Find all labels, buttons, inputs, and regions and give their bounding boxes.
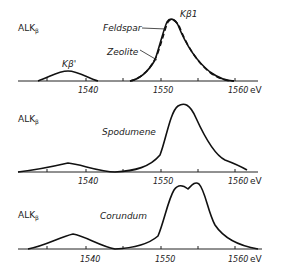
ev-label-1: eV [250, 85, 263, 95]
ev-label-3: eV [250, 254, 263, 264]
kbeta-prime-label: Kβ' [62, 59, 76, 69]
corundum-label: Corundum [100, 211, 147, 221]
svg-text:1540: 1540 [78, 177, 98, 186]
svg-text:1560: 1560 [228, 86, 248, 95]
zeolite-curve [130, 20, 234, 81]
zeolite-label: Zeolite [106, 47, 139, 57]
svg-text:1550: 1550 [153, 177, 173, 186]
panel-3-title: ALKβ [18, 210, 39, 222]
panel-2-title: ALKβ [18, 114, 39, 126]
svg-text:1540: 1540 [80, 255, 100, 264]
svg-text:1560: 1560 [228, 255, 248, 264]
feldspar-label: Feldspar [103, 23, 143, 33]
spodumene-curve [18, 104, 247, 172]
panel-1-title: ALKβ [18, 23, 39, 35]
svg-text:1540: 1540 [78, 86, 98, 95]
svg-text:1550: 1550 [155, 255, 175, 264]
spodumene-label: Spodumene [102, 127, 156, 137]
spectra-plot: ALKβ ALKβ ALKβ Kβ' Kβ1 Feldspar Zeolite … [0, 0, 281, 273]
kbeta1-label: Kβ1 [180, 9, 197, 19]
ev-label-2: eV [250, 176, 263, 186]
svg-text:1560: 1560 [228, 177, 248, 186]
zeolite-arrow [140, 50, 157, 60]
chart-figure: ALKβ ALKβ ALKβ Kβ' Kβ1 Feldspar Zeolite … [0, 0, 281, 273]
feldspar-arrow [142, 28, 166, 29]
svg-text:1550: 1550 [153, 86, 173, 95]
